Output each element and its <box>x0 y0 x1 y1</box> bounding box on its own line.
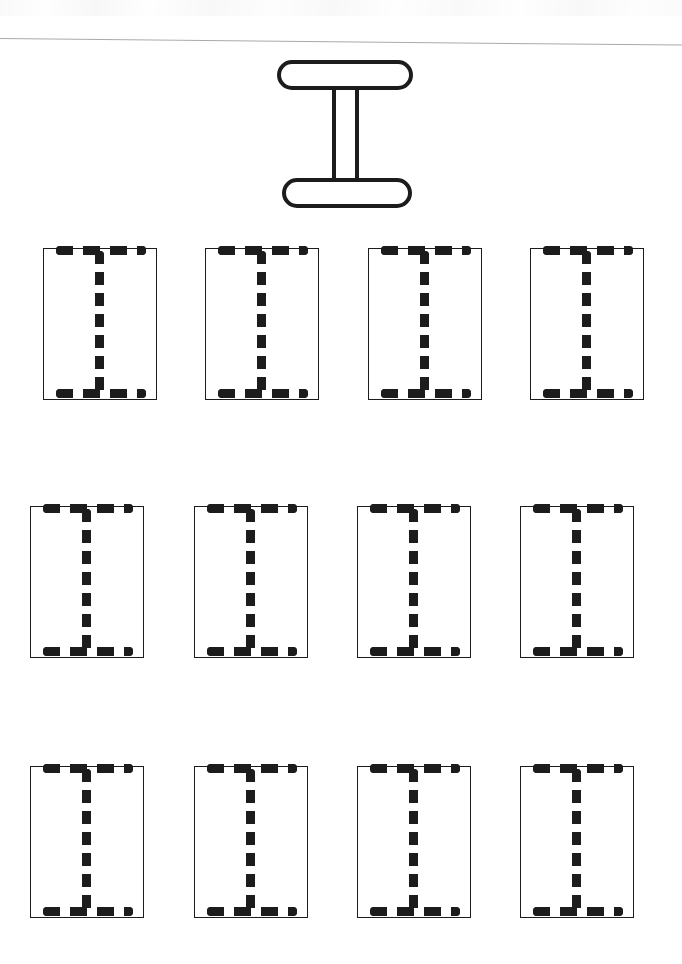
model-letter-stem <box>332 82 359 186</box>
dotted-bottom-serif-guide <box>56 389 146 398</box>
dotted-bottom-serif-guide <box>543 389 633 398</box>
worksheet-page <box>0 0 682 964</box>
dotted-letter-i-guide <box>31 507 143 657</box>
dotted-top-serif-guide <box>543 246 633 255</box>
dotted-stem-guide <box>582 251 591 397</box>
dotted-top-serif-guide <box>533 504 623 513</box>
dotted-letter-i-guide <box>195 507 307 657</box>
tracing-box[interactable] <box>520 766 634 918</box>
dotted-bottom-serif-guide <box>218 389 308 398</box>
dotted-top-serif-guide <box>533 764 623 773</box>
dotted-stem-guide <box>409 769 418 915</box>
dotted-top-serif-guide <box>370 764 460 773</box>
dotted-letter-i-guide <box>44 249 156 399</box>
tracing-box[interactable] <box>530 248 644 400</box>
dotted-stem-guide <box>409 509 418 655</box>
tracing-box[interactable] <box>30 506 144 658</box>
dotted-top-serif-guide <box>370 504 460 513</box>
tracing-box[interactable] <box>368 248 482 400</box>
dotted-top-serif-guide <box>207 764 297 773</box>
dotted-letter-i-guide <box>31 767 143 917</box>
dotted-stem-guide <box>82 769 91 915</box>
dotted-top-serif-guide <box>218 246 308 255</box>
model-letter-top-serif <box>277 60 413 90</box>
dotted-bottom-serif-guide <box>533 647 623 656</box>
dotted-bottom-serif-guide <box>43 647 133 656</box>
dotted-letter-i-guide <box>195 767 307 917</box>
dotted-top-serif-guide <box>43 764 133 773</box>
dotted-bottom-serif-guide <box>370 647 460 656</box>
dotted-bottom-serif-guide <box>207 647 297 656</box>
scan-noise-band <box>0 0 682 16</box>
model-letter-bottom-serif <box>282 178 412 208</box>
dotted-letter-i-guide <box>369 249 481 399</box>
tracing-box[interactable] <box>43 248 157 400</box>
dotted-top-serif-guide <box>207 504 297 513</box>
dotted-top-serif-guide <box>43 504 133 513</box>
dotted-bottom-serif-guide <box>207 907 297 916</box>
dotted-letter-i-guide <box>358 507 470 657</box>
dotted-bottom-serif-guide <box>533 907 623 916</box>
dotted-stem-guide <box>420 251 429 397</box>
tracing-box[interactable] <box>205 248 319 400</box>
dotted-letter-i-guide <box>531 249 643 399</box>
tracing-box[interactable] <box>30 766 144 918</box>
dotted-letter-i-guide <box>358 767 470 917</box>
dotted-letter-i-guide <box>521 767 633 917</box>
dotted-bottom-serif-guide <box>370 907 460 916</box>
dotted-bottom-serif-guide <box>381 389 471 398</box>
tracing-box[interactable] <box>520 506 634 658</box>
dotted-stem-guide <box>257 251 266 397</box>
dotted-top-serif-guide <box>381 246 471 255</box>
dotted-stem-guide <box>246 769 255 915</box>
tracing-box[interactable] <box>357 766 471 918</box>
dotted-letter-i-guide <box>206 249 318 399</box>
tracing-box[interactable] <box>194 766 308 918</box>
model-letter-i <box>277 60 413 208</box>
dotted-stem-guide <box>572 769 581 915</box>
header-divider-rule <box>0 38 682 46</box>
dotted-stem-guide <box>572 509 581 655</box>
dotted-stem-guide <box>95 251 104 397</box>
dotted-stem-guide <box>82 509 91 655</box>
dotted-top-serif-guide <box>56 246 146 255</box>
dotted-letter-i-guide <box>521 507 633 657</box>
tracing-box[interactable] <box>194 506 308 658</box>
tracing-box[interactable] <box>357 506 471 658</box>
dotted-stem-guide <box>246 509 255 655</box>
dotted-bottom-serif-guide <box>43 907 133 916</box>
